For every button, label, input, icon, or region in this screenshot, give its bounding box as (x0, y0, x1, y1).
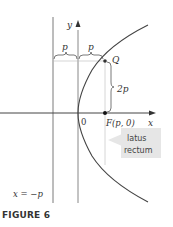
focus-label: F(p, 0) (105, 118, 135, 128)
latus-label-1: latus (127, 134, 147, 143)
point-focus (103, 111, 107, 115)
latus-callout-pointer (108, 134, 122, 146)
brace-2p (107, 62, 114, 112)
x-axis-arrow-icon (149, 111, 156, 116)
latus-label-2: rectum (124, 146, 153, 155)
origin-label: 0 (81, 117, 86, 127)
brace-left (54, 52, 77, 59)
point-q-label: Q (112, 55, 120, 65)
y-axis-label: y (66, 20, 73, 30)
point-q (103, 59, 107, 63)
directrix-label: x = −p (13, 189, 43, 199)
y-axis-arrow-icon (76, 20, 81, 27)
x-axis-label: x (148, 118, 153, 128)
p-left-label: p (62, 42, 68, 52)
p-right-label: p (88, 42, 94, 52)
figure-caption: FIGURE 6 (2, 210, 50, 220)
two-p-label: 2p (116, 84, 129, 94)
parabola-diagram: y x p p Q 2p 0 F(p, 0) latus rectum x = … (0, 0, 173, 227)
brace-right (79, 52, 103, 59)
